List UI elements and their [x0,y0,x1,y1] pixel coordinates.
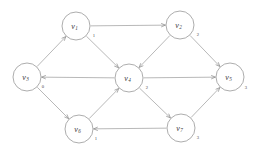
edge-line [42,77,115,78]
node-label-subscript: 3 [26,76,29,82]
graph-edge [42,76,115,79]
edge-line [37,87,68,118]
graph-node-v7[interactable]: v73 [167,114,200,142]
graph-node-v6[interactable]: v61 [65,115,98,143]
edge-line [190,36,220,67]
directed-graph-figure: v11v22v30v42v53v61v73 [0,0,259,153]
node-label-subscript: 4 [128,77,131,83]
graph-canvas: v11v22v30v42v53v61v73 [0,0,259,153]
graph-edge [86,36,118,68]
edge-line [139,36,170,68]
edge-line [140,88,171,118]
node-weight-label: 1 [95,136,98,141]
graph-edge [37,87,68,118]
graph-edge [37,37,66,67]
graph-edge [94,127,167,130]
graph-node-v2[interactable]: v22 [166,11,200,39]
graph-edge [91,24,166,27]
graph-node-v3[interactable]: v30 [13,63,45,91]
node-label-subscript: 6 [78,128,81,134]
graph-edge [144,76,216,79]
graph-edge [191,88,220,118]
node-weight-label: 1 [93,33,96,38]
edge-line [94,128,167,129]
node-weight-label: 0 [42,84,45,89]
node-weight-label: 3 [197,135,200,140]
node-label-subscript: 1 [75,25,78,31]
edge-line [91,25,166,26]
edge-line [37,37,66,67]
graph-edge [89,88,119,118]
edge-line [86,36,118,68]
node-weight-label: 2 [197,32,200,37]
graph-node-v5[interactable]: v53 [216,63,248,91]
node-weight-label: 3 [245,85,248,90]
node-label-subscript: 5 [229,76,232,82]
edge-line [89,88,119,118]
graph-edge [140,88,171,118]
edge-line [144,77,216,78]
graph-edge [139,36,170,68]
node-label-subscript: 7 [180,127,183,133]
graph-edge [190,36,220,67]
node-weight-label: 2 [146,85,149,90]
node-label-subscript: 2 [179,24,182,30]
edge-line [191,88,220,118]
